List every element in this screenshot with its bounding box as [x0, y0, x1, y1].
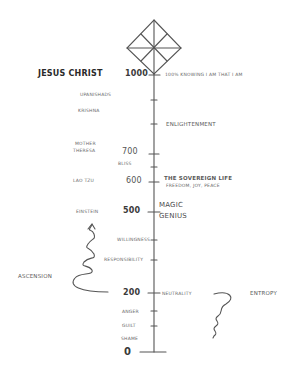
label-lao-tzu: Lao Tzu: [73, 178, 94, 183]
ascension-spiral-icon: [73, 225, 108, 292]
label-anger: Anger: [122, 309, 139, 314]
diagram-artwork: [0, 0, 296, 371]
label-neutrality: Neutrality: [162, 291, 192, 296]
label-responsibility: Responsibility: [104, 257, 143, 262]
label-upanishads: Upanishads: [80, 92, 111, 97]
label-einstein: Einstein: [76, 209, 98, 214]
label-sovereign-life: The Sovereign Life: [164, 175, 232, 181]
label-jesus-christ: Jesus Christ: [38, 69, 103, 78]
label-entropy: Entropy: [250, 290, 277, 296]
label-guilt: Guilt: [122, 323, 136, 328]
value-700: 700: [122, 147, 138, 156]
value-1000: 1000: [125, 69, 148, 78]
label-theresa: Theresa: [73, 148, 95, 153]
label-ascension: Ascension: [18, 273, 52, 279]
value-500: 500: [123, 206, 140, 215]
label-willingness: Willingness: [117, 237, 150, 242]
diamond-star-icon: [127, 20, 181, 74]
label-bliss: Bliss: [118, 161, 132, 166]
label-genius: Genius: [159, 212, 187, 220]
label-shame: Shame: [121, 336, 138, 341]
entropy-spiral-icon: [213, 293, 231, 338]
label-enlightenment: Enlightenment: [166, 121, 216, 127]
label-krishna: Krishna: [78, 108, 100, 113]
consciousness-scale-diagram: Jesus Christ 1000 100% Knowing I Am That…: [0, 0, 296, 371]
value-200: 200: [123, 288, 140, 297]
label-mother: Mother: [75, 141, 96, 146]
value-0: 0: [124, 346, 131, 357]
value-600: 600: [126, 176, 142, 185]
label-100-knowing: 100% Knowing I Am That I Am: [165, 72, 243, 77]
label-magic: Magic: [159, 201, 183, 209]
label-freedom-joy-peace: Freedom, Joy, Peace: [166, 183, 220, 188]
